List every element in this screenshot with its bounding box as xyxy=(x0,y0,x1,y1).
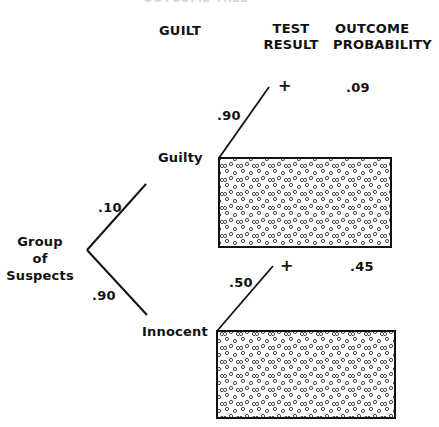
branch-line-guilty xyxy=(87,184,146,250)
result-guilty-positive: + xyxy=(278,78,292,93)
prob-guilty: .10 xyxy=(98,200,122,215)
node-innocent-label: Innocent xyxy=(142,324,208,339)
root-label-line2: of xyxy=(2,250,78,267)
shaded-box-innocent-negative xyxy=(217,331,395,418)
outcome-innocent-positive: .45 xyxy=(350,259,374,274)
root-label: Group of Suspects xyxy=(2,233,78,284)
outcome-guilty-positive: .09 xyxy=(346,80,370,95)
prob-guilty-positive: .90 xyxy=(217,108,241,123)
root-label-line1: Group xyxy=(2,233,78,250)
root-label-line3: Suspects xyxy=(2,267,78,284)
prob-innocent-positive: .50 xyxy=(229,275,253,290)
result-innocent-positive: + xyxy=(280,258,294,273)
shaded-box-guilty-negative xyxy=(219,158,391,247)
tree-diagram xyxy=(0,0,439,427)
prob-innocent: .90 xyxy=(92,288,116,303)
branch-line-innocent xyxy=(87,250,147,315)
node-guilty-label: Guilty xyxy=(158,150,203,165)
